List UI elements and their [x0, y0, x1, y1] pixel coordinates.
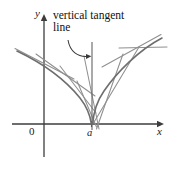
vertical-tangent-figure: vertical tangent line y x 0 a — [0, 0, 174, 169]
x-axis-label: x — [157, 126, 162, 138]
origin-label: 0 — [29, 126, 35, 138]
tangent-line-9 — [119, 47, 167, 48]
tangent-line-2 — [36, 54, 95, 96]
x-tick-label-a: a — [87, 127, 92, 138]
tangent-line-6 — [97, 54, 124, 129]
vertical-tangent-annotation: vertical tangent line — [53, 9, 124, 34]
y-axis-label: y — [35, 8, 40, 20]
annotation-line-1: vertical tangent — [53, 9, 124, 21]
annotation-line-2: line — [53, 21, 124, 33]
tangent-line-8 — [102, 35, 161, 68]
annotation-arrow — [68, 40, 87, 57]
